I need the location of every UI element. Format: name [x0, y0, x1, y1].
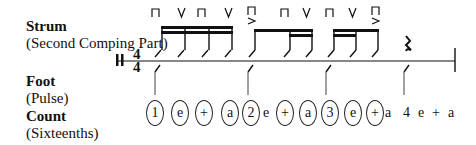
count-circled: 1	[146, 100, 164, 126]
count-circled: 2	[242, 100, 260, 126]
up-strum-icon	[178, 8, 185, 17]
count-plain: e	[263, 100, 269, 126]
quarter-rest-icon	[406, 36, 411, 51]
time-signature: 4 4	[133, 46, 141, 75]
strum-direction-marks	[152, 7, 379, 24]
count-plain: 4	[403, 100, 410, 126]
count-circled: e	[171, 100, 189, 126]
count-plain: +	[432, 100, 440, 126]
down-strum-icon	[281, 9, 288, 17]
foot-pulses	[155, 65, 409, 95]
count-circled: +	[195, 100, 213, 126]
count-plain: a	[385, 100, 391, 126]
count-plain: a	[448, 100, 454, 126]
count-circled: +	[276, 100, 294, 126]
up-strum-icon	[225, 8, 232, 17]
down-strum-icon	[198, 9, 205, 17]
up-strum-icon	[349, 8, 356, 17]
down-strum-icon	[248, 7, 255, 15]
accent-icon	[248, 18, 255, 24]
count-circled: e	[344, 100, 362, 126]
count-circled: a	[221, 100, 239, 126]
count-circled: 3	[321, 100, 339, 126]
start-bar-thick	[116, 54, 119, 66]
down-strum-icon	[152, 9, 159, 17]
count-circled: a	[299, 100, 317, 126]
start-bar-thick	[121, 54, 124, 66]
down-strum-icon	[326, 9, 333, 17]
count-plain: e	[418, 100, 424, 126]
up-strum-icon	[303, 8, 310, 17]
down-strum-icon	[372, 7, 379, 15]
count-circled: +	[366, 100, 384, 126]
time-sig-bottom: 4	[133, 59, 141, 75]
beams	[161, 26, 379, 37]
accent-icon	[372, 18, 379, 24]
